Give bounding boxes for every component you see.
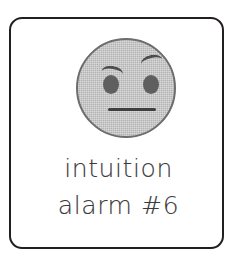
caption-line-1: intuition [11,150,226,187]
straight-mouth-icon [108,108,156,111]
intuition-alarm-card: intuition alarm #6 [9,17,224,249]
caption-line-2: alarm #6 [11,187,226,224]
caption: intuition alarm #6 [11,150,226,224]
face-circle [76,38,176,138]
left-eyebrow-icon [101,62,124,74]
right-eyebrow-raised-icon [139,51,162,64]
skeptical-face-icon [76,38,176,138]
left-eye-icon [103,75,119,94]
right-eye-icon [143,75,159,94]
